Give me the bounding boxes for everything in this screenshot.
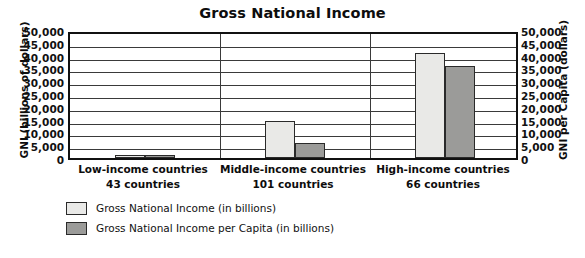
x-axis-category-labels: Low-income countries43 countriesMiddle-i…: [68, 162, 518, 196]
bar[interactable]: [415, 53, 445, 158]
y-tick-label-left: 20,000: [18, 104, 64, 114]
bar[interactable]: [295, 143, 325, 158]
category-name: High-income countries: [368, 162, 518, 177]
bar-group: [370, 34, 520, 158]
legend-swatch: [66, 222, 87, 235]
legend-swatch: [66, 202, 87, 215]
y-tick-label-right: 25,000: [521, 91, 567, 101]
plot-area: [68, 32, 518, 160]
legend-label: Gross National Income per Capita (in bil…: [96, 222, 334, 234]
y-tick-label-left: 5,000: [18, 142, 64, 152]
x-axis-category-label: High-income countries66 countries: [368, 162, 518, 192]
y-tick-label-right: 15,000: [521, 117, 567, 127]
y-tick-label-right: 40,000: [521, 53, 567, 63]
x-axis-category-label: Middle-income countries101 countries: [218, 162, 368, 192]
x-axis-category-label: Low-income countries43 countries: [68, 162, 218, 192]
y-tick-label-right: 45,000: [521, 40, 567, 50]
y-tick-label-right: 35,000: [521, 65, 567, 75]
y-tick-label-right: 20,000: [521, 104, 567, 114]
bars-layer: [70, 34, 516, 158]
bar[interactable]: [265, 121, 295, 158]
category-country-count: 66 countries: [368, 177, 518, 192]
category-country-count: 101 countries: [218, 177, 368, 192]
y-axis-ticks-left: 50,00045,00040,00035,00030,00025,00020,0…: [18, 26, 64, 166]
legend-label: Gross National Income (in billions): [96, 202, 276, 214]
category-name: Low-income countries: [68, 162, 218, 177]
chart-legend: Gross National Income (in billions)Gross…: [66, 198, 334, 238]
y-tick-label-left: 30,000: [18, 78, 64, 88]
y-tick-label-left: 15,000: [18, 117, 64, 127]
bar-group: [220, 34, 370, 158]
legend-item[interactable]: Gross National Income (in billions): [66, 198, 334, 218]
y-tick-label-right: 0: [521, 155, 567, 165]
y-tick-label-left: 10,000: [18, 129, 64, 139]
y-tick-label-right: 10,000: [521, 129, 567, 139]
y-axis-ticks-right: 50,00045,00040,00035,00030,00025,00020,0…: [521, 26, 567, 166]
legend-item[interactable]: Gross National Income per Capita (in bil…: [66, 218, 334, 238]
bar[interactable]: [445, 66, 475, 158]
chart-title: Gross National Income: [0, 5, 585, 21]
y-tick-label-right: 5,000: [521, 142, 567, 152]
y-tick-label-left: 40,000: [18, 53, 64, 63]
y-tick-label-right: 30,000: [521, 78, 567, 88]
y-tick-label-right: 50,000: [521, 27, 567, 37]
bar[interactable]: [145, 155, 175, 158]
y-tick-label-left: 50,000: [18, 27, 64, 37]
y-tick-label-left: 45,000: [18, 40, 64, 50]
y-tick-label-left: 35,000: [18, 65, 64, 75]
bar[interactable]: [115, 155, 145, 158]
category-name: Middle-income countries: [218, 162, 368, 177]
y-tick-label-left: 0: [18, 155, 64, 165]
bar-group: [70, 34, 220, 158]
y-tick-label-left: 25,000: [18, 91, 64, 101]
category-country-count: 43 countries: [68, 177, 218, 192]
